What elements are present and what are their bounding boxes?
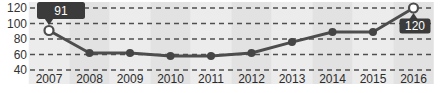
x-tick-label: 2010 (157, 72, 184, 86)
y-tick-label: 100 (7, 17, 27, 31)
callout-label: 120 (405, 19, 425, 33)
data-point (329, 28, 337, 36)
data-point (207, 52, 215, 60)
endpoint-marker (45, 26, 54, 35)
y-tick-label: 120 (7, 1, 27, 15)
x-tick-label: 2009 (117, 72, 144, 86)
data-point (167, 52, 175, 60)
x-tick-label: 2011 (198, 72, 224, 86)
callout-label: 91 (54, 4, 68, 18)
data-point (288, 38, 296, 46)
data-point (369, 28, 377, 36)
y-tick-label: 40 (14, 63, 28, 77)
y-tick-label: 80 (14, 32, 28, 46)
x-tick-label: 2013 (279, 72, 306, 86)
y-tick-label: 60 (14, 48, 28, 62)
x-tick-label: 2012 (238, 72, 265, 86)
chart-canvas: 9112040608010012020072008200920102011201… (0, 0, 446, 93)
x-tick-label: 2015 (360, 72, 387, 86)
x-tick-label: 2007 (36, 72, 63, 86)
line-chart: 9112040608010012020072008200920102011201… (0, 0, 446, 93)
endpoint-marker (409, 4, 418, 13)
data-point (126, 49, 134, 57)
data-point (248, 49, 256, 57)
data-point (86, 49, 94, 57)
x-tick-label: 2014 (319, 72, 346, 86)
x-tick-label: 2008 (76, 72, 103, 86)
x-tick-label: 2016 (400, 72, 427, 86)
